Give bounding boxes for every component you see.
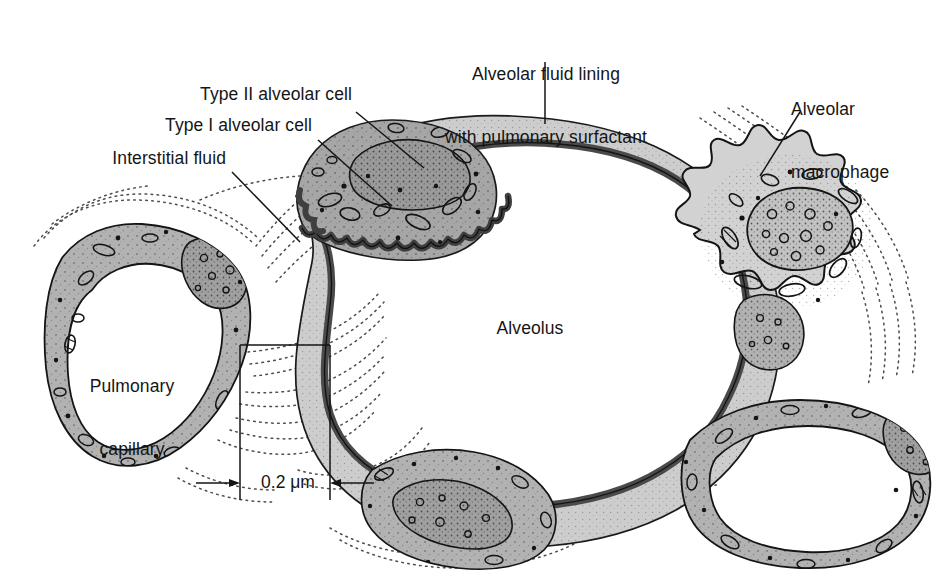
- label-alveolar-fluid-lining-line2: with pulmonary surfactant: [426, 127, 666, 148]
- figure-canvas: Alveolar fluid lining with pulmonary sur…: [0, 0, 950, 582]
- pulmonary-capillary-right: [681, 400, 943, 569]
- label-alveolar-macrophage-line2: macrophage: [791, 162, 941, 183]
- label-pulmonary-capillary-line2: capillary: [70, 439, 194, 460]
- label-alveolar-macrophage-line1: Alveolar: [791, 99, 941, 120]
- scale-bar-value: 0.2 μm: [246, 472, 330, 493]
- pulmonary-capillary-bottom: [360, 440, 570, 580]
- label-pulmonary-capillary: Pulmonary capillary: [70, 334, 194, 481]
- label-alveolar-fluid-lining-line1: Alveolar fluid lining: [426, 64, 666, 85]
- label-pulmonary-capillary-line1: Pulmonary: [70, 376, 194, 397]
- label-type-ii-alveolar-cell: Type II alveolar cell: [80, 84, 352, 105]
- wall-capillary-detail: [734, 295, 804, 370]
- label-interstitial-fluid: Interstitial fluid: [34, 148, 226, 169]
- label-alveolar-fluid-lining: Alveolar fluid lining with pulmonary sur…: [426, 22, 666, 169]
- label-type-i-alveolar-cell: Type I alveolar cell: [60, 115, 312, 136]
- leader-interstitial-fluid: [232, 172, 300, 242]
- label-alveolus: Alveolus: [475, 318, 585, 339]
- label-alveolar-macrophage: Alveolar macrophage: [791, 57, 941, 204]
